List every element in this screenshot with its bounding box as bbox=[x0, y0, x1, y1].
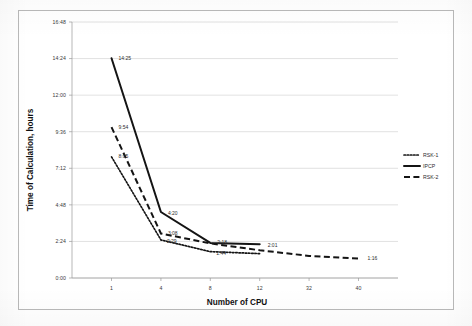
data-point-label: 2:18 bbox=[217, 239, 227, 245]
y-tick-label: 12:00 bbox=[53, 92, 66, 98]
y-tick-label: 7:12 bbox=[56, 165, 67, 171]
chart-legend: RSK-1IPCPRSK-2 bbox=[404, 152, 438, 180]
x-tick-label: 8 bbox=[209, 285, 212, 291]
series-line-rsk-2 bbox=[112, 127, 359, 259]
x-tick-label: 12 bbox=[257, 285, 263, 291]
x-axis-title: Number of CPU bbox=[207, 298, 268, 307]
y-tick-label: 9:36 bbox=[56, 129, 67, 135]
data-series-group bbox=[112, 58, 359, 258]
legend-label-ipcp: IPCP bbox=[423, 163, 436, 169]
x-tick-label: 32 bbox=[306, 285, 312, 291]
line-chart-canvas: 0:002:244:487:129:3612:0014:2416:48 1481… bbox=[0, 0, 472, 326]
legend-label-rsk-2: RSK-2 bbox=[423, 174, 438, 180]
y-tick-label: 16:48 bbox=[53, 19, 66, 25]
data-point-label: 3:08 bbox=[168, 230, 178, 236]
data-point-label: 2:01 bbox=[268, 242, 278, 248]
x-tick-label: 40 bbox=[355, 285, 361, 291]
y-tick-label: 4:48 bbox=[56, 202, 67, 208]
data-point-labels: 14:259:548:054:203:082:292:181:442:011:1… bbox=[119, 55, 378, 261]
data-point-label: 4:20 bbox=[168, 210, 178, 216]
data-point-label: 14:25 bbox=[119, 55, 132, 61]
y-tick-label: 14:24 bbox=[53, 55, 66, 61]
y-tick-label: 2:24 bbox=[56, 238, 67, 244]
y-axis bbox=[69, 22, 72, 278]
data-point-label: 1:44 bbox=[216, 250, 226, 256]
legend-label-rsk-1: RSK-1 bbox=[423, 152, 438, 158]
y-tick-label: 0:00 bbox=[56, 275, 67, 281]
data-point-label: 2:29 bbox=[167, 238, 177, 244]
series-line-ipcp bbox=[112, 58, 260, 244]
chart-figure: 0:002:244:487:129:3612:0014:2416:48 1481… bbox=[0, 0, 472, 326]
x-tick-label: 1 bbox=[110, 285, 113, 291]
data-point-label: 8:05 bbox=[119, 153, 129, 159]
x-tick-label: 4 bbox=[159, 285, 162, 291]
x-axis-tick-labels: 148123240 bbox=[110, 285, 361, 291]
data-point-label: 1:16 bbox=[367, 255, 377, 261]
y-axis-title: Time of Calculation, hours bbox=[26, 108, 35, 211]
y-axis-tick-labels: 0:002:244:487:129:3612:0014:2416:48 bbox=[53, 19, 66, 281]
data-point-label: 9:54 bbox=[119, 124, 129, 130]
x-axis bbox=[72, 278, 398, 281]
